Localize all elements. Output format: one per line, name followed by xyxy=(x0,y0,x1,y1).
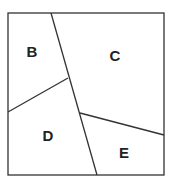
outer-square xyxy=(8,13,164,175)
region-label-b: B xyxy=(27,43,38,60)
region-label-e: E xyxy=(119,144,129,161)
divider-line-main xyxy=(51,13,97,175)
region-diagram: B C D E xyxy=(0,0,173,180)
region-label-d: D xyxy=(43,127,54,144)
region-label-c: C xyxy=(110,47,121,64)
divider-line-c-e xyxy=(80,113,164,135)
divider-line-b-d xyxy=(8,78,68,112)
